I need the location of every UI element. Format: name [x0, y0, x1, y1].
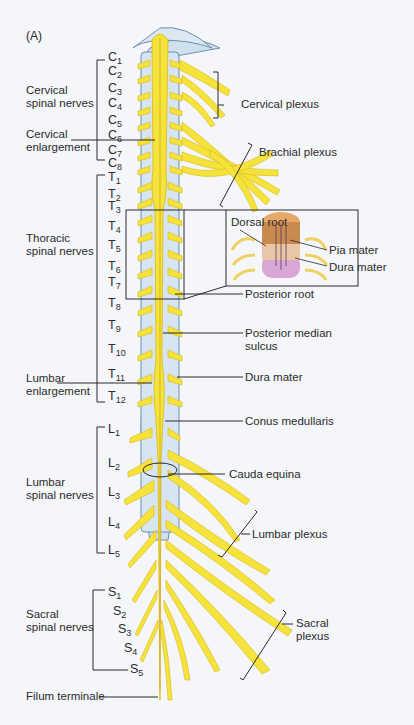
label-cervical-enlargement: Cervicalenlargement: [26, 128, 90, 154]
segment-label-t12: T12: [108, 389, 126, 405]
segment-label-t5: T5: [108, 238, 121, 254]
segment-label-t1: T1: [108, 170, 121, 186]
segment-label-t8: T8: [108, 296, 121, 312]
label-lumbar-plexus: Lumbar plexus: [252, 528, 327, 541]
label-lumbar-enlargement: Lumbarenlargement: [26, 372, 90, 398]
label-filum-terminale: Filum terminale: [26, 690, 105, 703]
segment-label-t3: T3: [108, 199, 121, 215]
segment-label-t11: T11: [108, 367, 125, 383]
segment-label-s1: S1: [108, 585, 121, 601]
segment-label-t4: T4: [108, 219, 121, 235]
segment-label-c4: C4: [108, 96, 122, 112]
segment-label-t6: T6: [108, 259, 121, 275]
label-brachial-plexus: Brachial plexus: [259, 146, 337, 159]
label-sacral-plexus: Sacralplexus: [296, 617, 329, 643]
segment-label-l3: L3: [108, 485, 120, 501]
label-conus-medullaris: Conus medullaris: [245, 415, 334, 428]
label-lumbar-spinal-nerves: Lumbarspinal nerves: [26, 476, 94, 502]
label-cervical-spinal-nerves: Cervicalspinal nerves: [26, 84, 94, 110]
label-posterior-root: Posterior root: [245, 288, 314, 301]
label-sacral-spinal-nerves: Sacralspinal nerves: [26, 608, 94, 634]
label-dura-mater: Dura mater: [245, 371, 303, 384]
segment-label-s3: S3: [118, 622, 131, 638]
segment-label-t10: T10: [108, 342, 126, 358]
segment-label-c6: C6: [108, 128, 122, 144]
segment-label-l1: L1: [108, 422, 120, 438]
label-cauda-equina: Cauda equina: [229, 468, 301, 481]
label-cervical-plexus: Cervical plexus: [241, 98, 319, 111]
segment-label-s5: S5: [130, 662, 143, 678]
inset-label-pia-mater: Pia mater: [329, 244, 378, 257]
segment-label-s4: S4: [124, 641, 137, 657]
label-posterior-median-sulcus: Posterior mediansulcus: [245, 327, 332, 353]
segment-label-c5: C5: [108, 113, 122, 129]
segment-label-l5: L5: [108, 543, 120, 559]
inset-label-dura-mater: Dura mater: [329, 261, 387, 274]
inset-label-dorsal-root: Dorsal root: [231, 216, 287, 229]
segment-label-c2: C2: [108, 64, 122, 80]
segment-label-l4: L4: [108, 515, 120, 531]
segment-label-c3: C3: [108, 81, 122, 97]
segment-label-l2: L2: [108, 456, 120, 472]
segment-label-s2: S2: [113, 604, 126, 620]
label-thoracic-spinal-nerves: Thoracicspinal nerves: [26, 232, 94, 258]
segment-label-t7: T7: [108, 275, 121, 291]
segment-label-t9: T9: [108, 318, 121, 334]
